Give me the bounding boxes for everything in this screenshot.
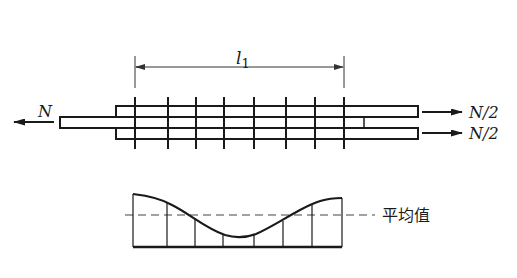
plates: [60, 106, 418, 139]
force-label-left: N: [37, 102, 53, 121]
force-distribution: 平均值: [125, 194, 430, 247]
force-label-right-bottom: N/2: [468, 124, 499, 143]
force-label-right-top: N/2: [468, 103, 499, 122]
dimension-label: l1: [236, 48, 250, 71]
force-right-bottom: N/2: [422, 124, 499, 143]
average-label: 平均值: [382, 206, 430, 225]
bolts: [135, 97, 344, 149]
top-cover-plate: [116, 106, 418, 117]
main-plate-left: [60, 117, 116, 128]
bottom-cover-plate: [116, 128, 418, 139]
joint-diagram: l1 N N/2 N/2: [0, 0, 517, 278]
dimension-l1: l1: [135, 48, 344, 88]
force-right-top: N/2: [422, 103, 499, 122]
force-left: N: [14, 102, 54, 122]
